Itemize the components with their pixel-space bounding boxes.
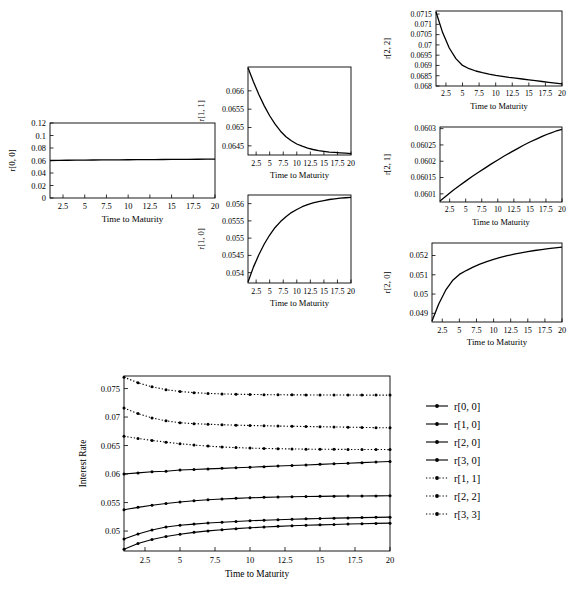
legend-item[interactable]: r[3, 0]	[424, 451, 480, 469]
y-tick-label: 0	[42, 194, 46, 203]
x-tick-label: 20	[347, 159, 355, 168]
data-marker	[123, 508, 126, 511]
data-marker	[221, 521, 224, 524]
x-axis-title: Time to Maturity	[467, 337, 528, 347]
data-marker	[375, 522, 378, 525]
y-axis-title: r[1, 0]	[196, 228, 206, 250]
legend-marker	[435, 512, 439, 516]
data-marker	[291, 393, 294, 396]
data-marker	[333, 448, 336, 451]
data-marker	[333, 425, 336, 428]
data-marker	[151, 385, 154, 388]
data-marker	[151, 538, 154, 541]
data-marker	[277, 518, 280, 521]
legend-label: r[1, 0]	[454, 419, 480, 430]
legend-item[interactable]: r[2, 0]	[424, 433, 480, 451]
data-marker	[235, 466, 238, 469]
data-marker	[193, 444, 196, 447]
data-marker	[319, 448, 322, 451]
y-tick-label: 0.04	[31, 169, 46, 178]
x-tick-label: 7.5	[471, 326, 481, 335]
data-marker	[389, 394, 392, 397]
data-marker	[361, 516, 364, 519]
legend-item[interactable]: r[2, 2]	[424, 487, 480, 505]
x-tick-label: 10	[492, 89, 500, 98]
data-marker	[263, 526, 266, 529]
y-tick-label: 0.1	[36, 132, 46, 141]
data-marker	[277, 425, 280, 428]
combined-chart: 2.557.51012.51517.5200.050.0550.060.0650…	[76, 370, 396, 595]
x-tick-label: 7.5	[210, 555, 221, 565]
x-axis-title: Time to Maturity	[472, 218, 530, 227]
legend-item[interactable]: r[0, 0]	[424, 397, 480, 415]
legend-label: r[2, 2]	[454, 491, 480, 502]
data-marker	[389, 494, 392, 497]
y-tick-label: 0.08	[31, 144, 46, 153]
x-tick-label: 17.5	[538, 326, 552, 335]
y-tick-label: 0.0695	[411, 51, 433, 60]
legend-swatch-2	[424, 436, 450, 448]
subplot-r00: 2.557.51012.51517.52000.020.040.060.080.…	[6, 118, 221, 230]
x-axis-title: Time to Maturity	[470, 102, 528, 111]
y-tick-label: 0.06	[105, 469, 121, 479]
data-marker	[361, 394, 364, 397]
legend-item[interactable]: r[3, 3]	[424, 505, 480, 523]
data-marker	[235, 520, 238, 523]
data-marker	[221, 467, 224, 470]
x-tick-label: 15	[320, 159, 328, 168]
x-tick-label: 5	[83, 202, 87, 211]
data-marker	[319, 523, 322, 526]
legend-swatch-1	[424, 418, 450, 430]
data-marker	[333, 394, 336, 397]
x-tick-label: 12.5	[277, 555, 292, 565]
y-tick-label: 0.069	[414, 61, 432, 70]
subplot-r20: 2.557.51012.51517.5200.0490.050.0510.052…	[382, 238, 568, 356]
legend-label: r[2, 0]	[454, 437, 480, 448]
y-axis-title: r[1, 1]	[196, 100, 206, 122]
data-marker	[123, 548, 126, 551]
legend-label: r[1, 1]	[454, 473, 480, 484]
data-marker	[137, 471, 140, 474]
x-tick-label: 7.5	[474, 89, 484, 98]
data-marker	[179, 524, 182, 527]
y-tick-label: 0.055	[226, 234, 244, 243]
data-marker	[123, 376, 126, 379]
data-marker	[277, 525, 280, 528]
x-tick-label: 2.5	[140, 555, 151, 565]
y-tick-label: 0.0601	[415, 190, 437, 199]
data-marker	[375, 494, 378, 497]
x-tick-label: 15	[525, 89, 533, 98]
x-tick-label: 2.5	[251, 287, 261, 296]
y-axis-title: r[2, 0]	[382, 271, 392, 293]
x-tick-label: 20	[558, 326, 566, 335]
data-marker	[221, 423, 224, 426]
data-marker	[151, 504, 154, 507]
y-tick-label: 0.075	[101, 384, 120, 394]
data-marker	[123, 473, 126, 476]
y-tick-label: 0.0685	[411, 72, 433, 81]
chart-legend: r[0, 0] r[1, 0] r[2, 0] r[3, 0] r[1, 1] …	[424, 397, 480, 523]
y-tick-label: 0.065	[226, 123, 244, 132]
data-marker	[221, 445, 224, 448]
data-marker	[151, 470, 154, 473]
x-tick-label: 5	[268, 159, 272, 168]
data-marker	[137, 412, 140, 415]
x-tick-label: 17.5	[330, 159, 344, 168]
y-axis-title: r[2, 1]	[383, 154, 392, 175]
legend-item[interactable]: r[1, 1]	[424, 469, 480, 487]
data-marker	[235, 393, 238, 396]
data-marker	[137, 542, 140, 545]
x-tick-label: 12.5	[303, 287, 317, 296]
x-tick-label: 2.5	[251, 159, 261, 168]
x-tick-label: 15	[316, 555, 325, 565]
data-marker	[389, 516, 392, 519]
y-tick-label: 0.12	[31, 119, 46, 128]
x-tick-label: 5	[268, 287, 272, 296]
data-marker	[375, 516, 378, 519]
y-tick-label: 0.054	[226, 269, 244, 278]
legend-label: r[0, 0]	[454, 401, 480, 412]
legend-item[interactable]: r[1, 0]	[424, 415, 480, 433]
data-marker	[249, 526, 252, 529]
y-tick-label: 0.06015	[411, 173, 436, 182]
data-marker	[347, 426, 350, 429]
